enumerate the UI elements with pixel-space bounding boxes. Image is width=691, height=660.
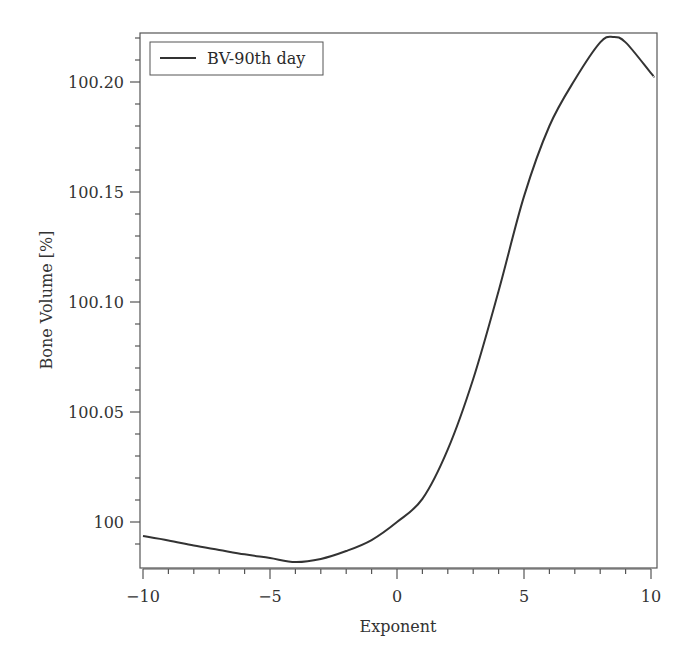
y-axis: 100100.05100.10100.15100.20 (68, 38, 140, 544)
x-tick-label: 10 (641, 587, 661, 606)
data-line-bv-90th-day (143, 37, 654, 562)
x-axis: −10−50510 (126, 569, 661, 606)
y-tick-label: 100 (93, 513, 124, 532)
x-axis-label: Exponent (359, 617, 437, 636)
x-tick-label: 0 (392, 587, 402, 606)
x-tick-label: −10 (126, 587, 160, 606)
x-tick-label: −5 (258, 587, 282, 606)
legend-label: BV-90th day (207, 49, 305, 68)
y-tick-label: 100.05 (68, 403, 124, 422)
y-axis-label: Bone Volume [%] (37, 231, 56, 370)
x-tick-label: 5 (519, 587, 529, 606)
line-chart: 100100.05100.10100.15100.20 −10−50510 BV… (0, 0, 691, 660)
legend: BV-90th day (150, 42, 323, 75)
y-tick-label: 100.10 (68, 293, 124, 312)
y-tick-label: 100.15 (68, 183, 124, 202)
plot-frame (140, 33, 657, 568)
y-tick-label: 100.20 (68, 73, 124, 92)
